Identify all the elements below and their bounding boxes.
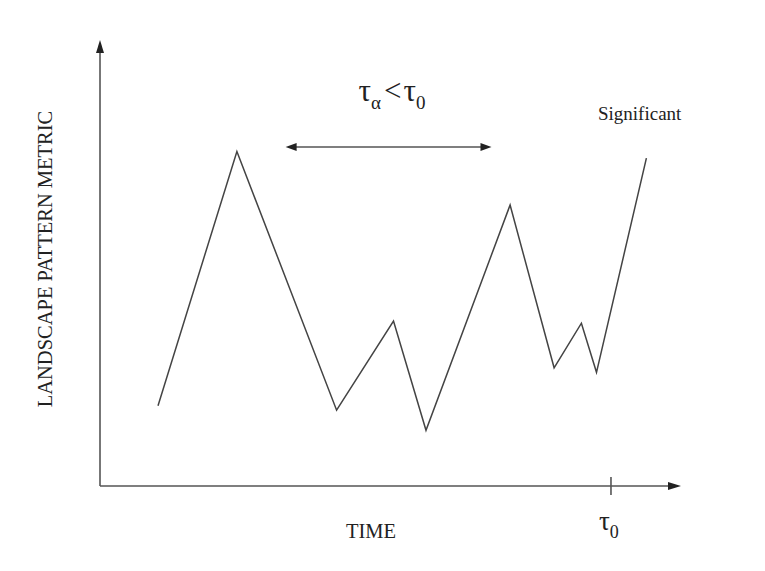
y-axis-arrowhead	[96, 40, 104, 53]
x-tick-label-sub: 0	[610, 522, 619, 542]
interval-double-arrow	[286, 143, 492, 151]
landscape-metric-diagram: LANDSCAPE PATTERN METRIC τ0 TIME τα<τ0 S…	[0, 0, 765, 571]
series-line-metric	[158, 152, 646, 431]
tau-zero-sub: 0	[416, 92, 426, 113]
tau-alpha-base: τ	[359, 73, 371, 108]
interval-arrowhead-right	[481, 143, 492, 151]
interval-arrowhead-left	[286, 143, 297, 151]
tau-alpha-sub: α	[371, 92, 381, 113]
x-axis-label: TIME	[346, 520, 396, 542]
tau-zero-base: τ	[403, 73, 415, 108]
x-axis-arrowhead	[668, 482, 681, 490]
less-than-operator: <	[384, 73, 401, 108]
interval-label: τα<τ0	[359, 73, 426, 113]
x-tick-label: τ0	[599, 506, 619, 542]
series-layer	[158, 151, 647, 430]
y-axis-label: LANDSCAPE PATTERN METRIC	[34, 111, 56, 408]
x-tick-label-base: τ	[599, 506, 610, 536]
significant-label: Significant	[598, 103, 682, 124]
